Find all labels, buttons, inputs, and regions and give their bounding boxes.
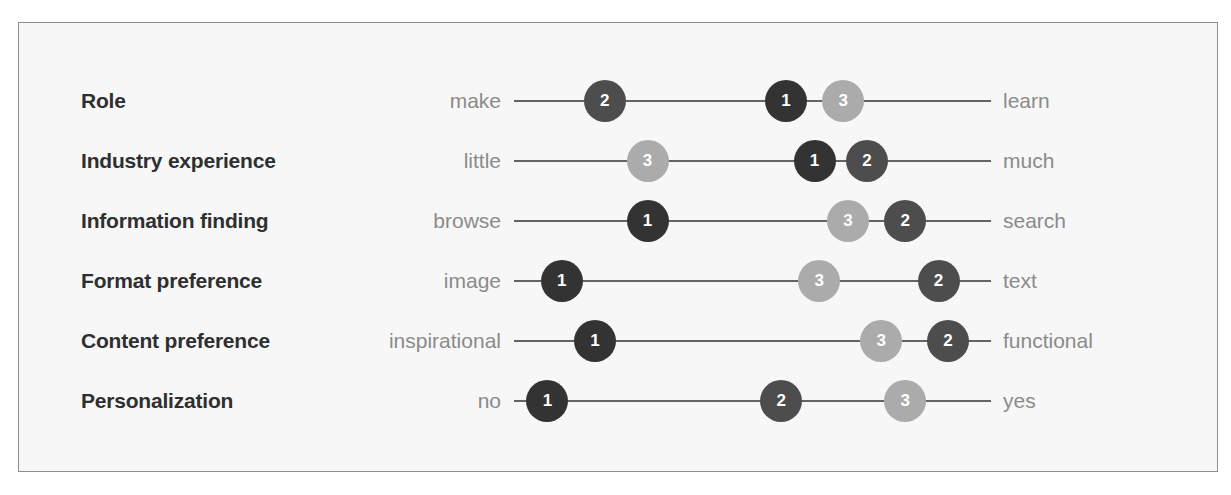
spectrum-axis-line xyxy=(514,160,991,162)
left-pole-label: browse xyxy=(199,191,501,251)
left-pole-label: make xyxy=(199,71,501,131)
persona-marker-1: 1 xyxy=(526,380,568,422)
persona-marker-2: 2 xyxy=(584,80,626,122)
persona-marker-2: 2 xyxy=(918,260,960,302)
right-pole-label: much xyxy=(1003,131,1054,191)
persona-marker-3: 3 xyxy=(860,320,902,362)
persona-marker-1: 1 xyxy=(541,260,583,302)
persona-spectrum-chart: Rolemake213learnIndustry experiencelittl… xyxy=(18,22,1218,472)
spectrum-row: Rolemake213learn xyxy=(19,71,1217,131)
persona-marker-1: 1 xyxy=(765,80,807,122)
spectrum-row: Content preferenceinspirational132functi… xyxy=(19,311,1217,371)
right-pole-label: search xyxy=(1003,191,1066,251)
persona-marker-2: 2 xyxy=(884,200,926,242)
persona-marker-1: 1 xyxy=(627,200,669,242)
right-pole-label: learn xyxy=(1003,71,1050,131)
persona-marker-2: 2 xyxy=(927,320,969,362)
left-pole-label: inspirational xyxy=(199,311,501,371)
right-pole-label: text xyxy=(1003,251,1037,311)
right-pole-label: yes xyxy=(1003,371,1036,431)
persona-marker-1: 1 xyxy=(794,140,836,182)
spectrum-row-list: Rolemake213learnIndustry experiencelittl… xyxy=(19,23,1217,471)
left-pole-label: no xyxy=(199,371,501,431)
persona-marker-3: 3 xyxy=(627,140,669,182)
persona-marker-3: 3 xyxy=(884,380,926,422)
right-pole-label: functional xyxy=(1003,311,1093,371)
left-pole-label: little xyxy=(199,131,501,191)
persona-marker-3: 3 xyxy=(822,80,864,122)
spectrum-row: Personalizationno123yes xyxy=(19,371,1217,431)
persona-marker-3: 3 xyxy=(827,200,869,242)
left-pole-label: image xyxy=(199,251,501,311)
persona-marker-2: 2 xyxy=(760,380,802,422)
persona-marker-3: 3 xyxy=(798,260,840,302)
spectrum-row: Industry experiencelittle312much xyxy=(19,131,1217,191)
persona-marker-1: 1 xyxy=(574,320,616,362)
spectrum-row: Information findingbrowse132search xyxy=(19,191,1217,251)
persona-marker-2: 2 xyxy=(846,140,888,182)
spectrum-row: Format preferenceimage132text xyxy=(19,251,1217,311)
